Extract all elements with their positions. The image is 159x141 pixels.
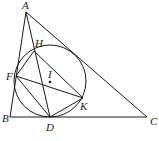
segment-ad xyxy=(26,12,50,117)
segments xyxy=(10,12,147,117)
segment-hk xyxy=(34,51,83,98)
label-point-i: I xyxy=(47,68,53,80)
label-point-a: A xyxy=(21,0,29,11)
point-labels: ABCDFHKI xyxy=(2,0,158,133)
label-point-k: K xyxy=(79,100,88,112)
segment-ab xyxy=(10,12,26,117)
label-point-h: H xyxy=(34,37,44,49)
label-point-d: D xyxy=(45,121,54,133)
segment-dk xyxy=(50,98,83,117)
geometry-diagram: ABCDFHKI xyxy=(0,0,159,141)
label-point-c: C xyxy=(150,115,158,127)
label-point-b: B xyxy=(2,112,9,124)
incenter-dot xyxy=(49,81,52,84)
label-point-f: F xyxy=(5,70,13,82)
